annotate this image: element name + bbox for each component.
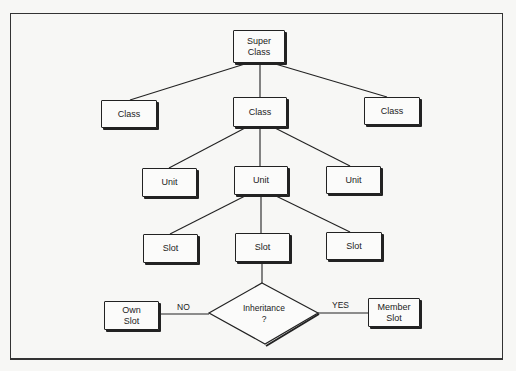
node-super-class-line1: Super — [247, 36, 271, 47]
node-class-center-label: Class — [249, 107, 272, 118]
node-class-right: Class — [364, 97, 420, 125]
node-class-center: Class — [233, 97, 287, 127]
node-class-left-label: Class — [118, 109, 141, 120]
edge-label-no: NO — [177, 302, 190, 312]
decision-label-line2: ? — [224, 314, 304, 325]
node-slot-left: Slot — [143, 234, 198, 263]
edge-super-class-left — [130, 63, 248, 100]
node-own-slot: Own Slot — [104, 301, 159, 330]
node-unit-left-label: Unit — [161, 177, 177, 188]
edge-class-unit-right — [275, 128, 350, 166]
node-unit-center: Unit — [234, 166, 288, 195]
node-member-slot-line2: Slot — [377, 313, 410, 324]
node-slot-left-label: Slot — [163, 243, 179, 254]
node-super-class-line2: Class — [247, 47, 271, 58]
node-unit-center-label: Unit — [253, 175, 269, 186]
node-class-left: Class — [101, 100, 157, 128]
node-unit-right-label: Unit — [345, 175, 361, 186]
node-unit-right: Unit — [326, 166, 381, 194]
node-own-slot-line1: Own — [122, 305, 141, 316]
node-slot-center: Slot — [235, 233, 290, 262]
node-slot-right-label: Slot — [346, 241, 362, 252]
decision-label: Inheritance ? — [224, 303, 304, 325]
edge-label-yes: YES — [332, 300, 349, 310]
node-own-slot-line2: Slot — [122, 316, 141, 327]
node-class-right-label: Class — [381, 106, 404, 117]
decision-label-line1: Inheritance — [224, 303, 304, 314]
node-slot-center-label: Slot — [255, 242, 271, 253]
node-super-class: Super Class — [233, 30, 285, 63]
node-member-slot-line1: Member — [377, 302, 410, 313]
node-member-slot: Member Slot — [368, 298, 420, 327]
edge-class-unit-left — [169, 128, 245, 168]
edge-unit-slot-left — [170, 196, 245, 234]
edge-super-class-right — [272, 63, 387, 97]
node-unit-left: Unit — [142, 168, 197, 197]
node-slot-right: Slot — [326, 232, 382, 260]
edge-unit-slot-right — [276, 196, 350, 232]
